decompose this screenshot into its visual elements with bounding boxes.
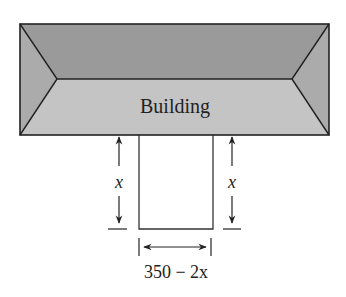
left-x-label: x [114,172,123,192]
roof-top-face [20,24,329,79]
building-label: Building [140,95,210,118]
enclosure-rectangle [139,135,213,229]
building-enclosure-diagram: Building x x 350 − 2x [0,0,346,297]
left-dimension: x [108,137,127,229]
building-roof: Building [20,24,329,135]
right-x-label: x [227,172,236,192]
bottom-dimension: 350 − 2x [139,238,211,282]
bottom-dimension-label: 350 − 2x [144,262,208,282]
right-dimension: x [223,137,241,229]
